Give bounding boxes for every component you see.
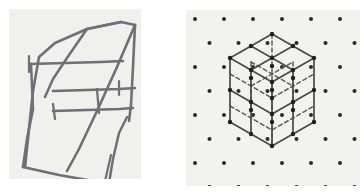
freehand-sketch-svg — [9, 9, 141, 179]
lattice-dot — [266, 137, 270, 141]
lattice-dot — [353, 137, 357, 141]
lattice-dot — [251, 161, 255, 165]
cube-vertex-dot — [270, 96, 274, 100]
cube-vertex-dot — [312, 56, 316, 60]
lattice-dot — [208, 41, 212, 45]
lattice-dot — [208, 89, 212, 93]
cube-vertex-dot — [270, 120, 274, 124]
cube-vertex-dot — [228, 120, 232, 124]
lattice-dot — [295, 137, 299, 141]
lattice-dot — [338, 161, 342, 165]
lattice-dot — [295, 41, 299, 45]
cube-vertex-dot — [270, 80, 274, 84]
cube-vertex-dot — [291, 68, 295, 72]
cube-vertex-dot — [270, 64, 274, 68]
cube-vertex-dot — [270, 144, 274, 148]
cube-vertex-dot — [270, 56, 274, 60]
lattice-dot — [222, 113, 226, 117]
lattice-dot — [222, 17, 226, 21]
figure-root — [0, 0, 364, 195]
lattice-dot — [193, 65, 197, 69]
lattice-dot — [237, 41, 241, 45]
cube-vertex-dot — [291, 44, 295, 48]
lattice-dot — [193, 161, 197, 165]
cube-vertex-dot — [249, 44, 253, 48]
lattice-dot — [353, 89, 357, 93]
lattice-dot — [193, 17, 197, 21]
lattice-dot — [251, 17, 255, 21]
cube-vertex-dot — [249, 76, 253, 80]
lattice-dot — [280, 113, 284, 117]
cube-vertex-dot — [249, 100, 253, 104]
cube-vertex-dot — [228, 88, 232, 92]
lattice-dot — [353, 41, 357, 45]
cube-vertex-dot — [270, 88, 274, 92]
lattice-dot — [324, 137, 328, 141]
cube-vertex-dot — [228, 56, 232, 60]
lattice-dot — [309, 65, 313, 69]
lattice-dot — [222, 161, 226, 165]
cube-vertex-dot — [249, 68, 253, 72]
cube-vertex-dot — [291, 108, 295, 112]
cube-vertex-dot — [270, 32, 274, 36]
cube-vertex-dot — [249, 132, 253, 136]
lattice-dot — [324, 89, 328, 93]
cube-vertex-dot — [249, 108, 253, 112]
lattice-dot — [338, 65, 342, 69]
panel-isometric-grid — [186, 10, 360, 186]
panel-freehand-sketch — [9, 9, 141, 179]
lattice-dot — [295, 89, 299, 93]
cube-vertex-dot — [270, 112, 274, 116]
lattice-dot — [193, 113, 197, 117]
lattice-dot — [309, 161, 313, 165]
lattice-dot — [280, 161, 284, 165]
lattice-dot — [309, 17, 313, 21]
cube-vertex-dot — [291, 132, 295, 136]
lattice-dot — [266, 89, 270, 93]
cube-vertex-dot — [312, 120, 316, 124]
lattice-dot — [237, 89, 241, 93]
lattice-dot — [208, 137, 212, 141]
lattice-dot — [338, 17, 342, 21]
lattice-dot — [309, 113, 313, 117]
cube-vertex-dot — [291, 76, 295, 80]
lattice-dot — [266, 41, 270, 45]
lattice-dot — [324, 41, 328, 45]
cube-vertex-dot — [291, 100, 295, 104]
isometric-grid-svg — [186, 10, 360, 186]
cube-vertex-dot — [312, 88, 316, 92]
lattice-dot — [338, 113, 342, 117]
lattice-dot — [237, 137, 241, 141]
lattice-dot — [280, 17, 284, 21]
lattice-dot — [222, 65, 226, 69]
